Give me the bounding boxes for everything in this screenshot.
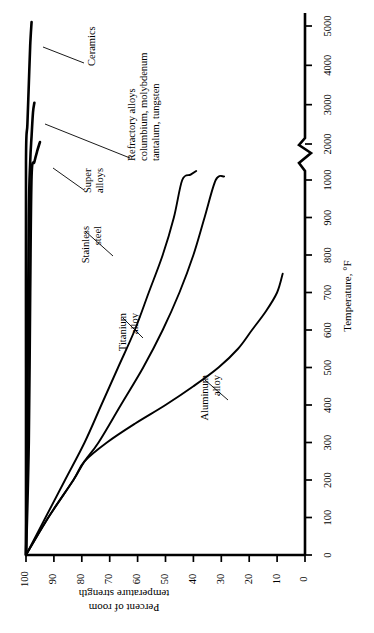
temperature-tick-label: 500 [322,360,333,376]
curve-label-refractory-alloys-line3: tantalum, tungsten [150,83,161,161]
percent-tick-label: 30 [215,574,226,585]
chart-figure: 0100200300400500600700800900100020003000… [0,0,374,633]
leader-line-ceramics [43,47,84,63]
temperature-axis-tick-labels: 0100200300400500600700800900100020003000… [322,16,333,558]
percent-tick-label: 100 [19,571,30,587]
curve-label-aluminum-alloy-line2: alloy [211,374,222,396]
curve-labels-group: Ceramics Refractory alloys columbium, mo… [80,26,222,420]
percent-tick-label: 60 [131,574,142,585]
axes-group [26,13,312,562]
percent-tick-label: 50 [159,574,170,585]
temperature-tick-label: 700 [322,285,333,301]
percent-tick-label: 80 [75,574,86,585]
curve-label-super-alloys-line2: alloys [94,168,105,193]
temperature-tick-label: 5000 [322,16,333,37]
temperature-tick-label: 600 [322,322,333,338]
percent-axis-tick-labels: 0102030405060708090100 [19,571,309,587]
curve-label-stainless-steel-line2: steel [92,226,103,245]
temperature-tick-label: 0 [322,552,333,557]
curve-label-ceramics: Ceramics [86,26,97,66]
temperature-tick-label: 2000 [322,134,333,155]
temperature-tick-label: 3000 [322,94,333,115]
percent-tick-label: 70 [103,574,114,585]
curve-label-refractory-alloys-line2: columbium, molybdenum [138,53,149,162]
curve-label-refractory-alloys-line1: Refractory alloys [126,88,137,161]
temperature-axis-line [299,13,311,555]
percent-tick-label: 90 [47,574,58,585]
temperature-tick-label: 400 [322,397,333,413]
curve-label-aluminum-alloy-line1: Aluminum [199,375,210,421]
temperature-tick-label: 300 [322,435,333,451]
curve-label-titanium-alloy-line2: alloy [129,312,140,334]
chart-canvas: 0100200300400500600700800900100020003000… [0,0,374,633]
percent-tick-label: 0 [298,576,309,581]
temperature-tick-label: 200 [322,472,333,488]
percent-axis-title-line2: temperature strength [78,588,169,600]
temperature-tick-label: 900 [322,210,333,226]
temperature-tick-label: 1000 [322,170,333,191]
temperature-tick-label: 800 [322,247,333,263]
percent-tick-label: 10 [271,574,282,585]
curve-stainless-steel [26,171,196,555]
curve-label-stainless-steel-line1: Stainless [80,226,91,263]
leader-line-refractory-alloys [45,124,130,158]
percent-tick-label: 40 [187,574,198,585]
curve-aluminum-alloy [26,274,283,555]
percent-axis-title-line1: Percent of room [88,602,159,614]
curve-label-super-alloys-line1: Super [82,168,93,193]
curve-label-titanium-alloy-line1: Titanium [117,313,128,351]
leader-line-super-alloys [53,168,84,190]
temperature-tick-label: 4000 [322,55,333,76]
percent-tick-label: 20 [243,574,254,585]
temperature-tick-label: 100 [322,510,333,526]
temperature-axis-title: Temperature, °F [341,260,353,331]
